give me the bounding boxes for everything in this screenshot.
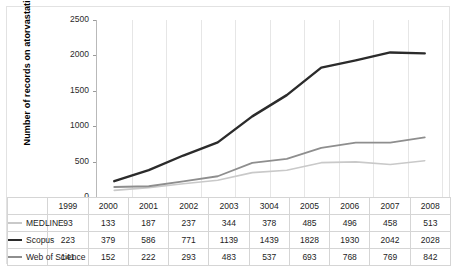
legend-series-name: MEDLINE — [26, 218, 64, 228]
legend-line-swatch-icon — [8, 222, 22, 224]
column-header-2008: 2008 — [410, 198, 450, 215]
column-header-2002: 2002 — [169, 198, 209, 215]
column-header-2007: 2007 — [370, 198, 410, 215]
data-cell: 1828 — [289, 232, 329, 249]
plot-area — [97, 20, 442, 197]
y-tick-label: 1000 — [55, 121, 89, 130]
legend-line-swatch-icon — [8, 239, 22, 241]
y-tick-label: 500 — [55, 157, 89, 166]
table-header-row: 1999200020012002200330042005200620072008 — [8, 198, 451, 215]
line-series-web-of-science — [114, 137, 425, 187]
data-cell: 485 — [289, 215, 329, 232]
table-row: MEDLINE93133187237344378485496458513 — [8, 215, 451, 232]
table-row: Web of Science14115222229348353769376876… — [8, 249, 451, 266]
table-row: Scopus2233795867711139143918281930204220… — [8, 232, 451, 249]
data-cell: 152 — [88, 249, 128, 266]
data-cell: 769 — [370, 249, 410, 266]
y-axis-title: Number of records on atorvastatin — [22, 0, 32, 150]
legend-key-web-of-science: Web of Science — [8, 249, 48, 266]
data-table-region: 1999200020012002200330042005200620072008… — [7, 197, 451, 264]
data-cell: 293 — [169, 249, 209, 266]
table-corner-cell — [8, 198, 48, 215]
y-tick-label: 1500 — [55, 86, 89, 95]
data-cell: 2028 — [410, 232, 450, 249]
data-cell: 842 — [410, 249, 450, 266]
y-tick-label: 2000 — [55, 50, 89, 59]
line-series-scopus — [114, 52, 425, 181]
legend-series-name: Web of Science — [26, 252, 85, 262]
data-cell: 222 — [128, 249, 168, 266]
data-cell: 483 — [209, 249, 249, 266]
legend-key-medline: MEDLINE — [8, 215, 48, 232]
data-cell: 693 — [289, 249, 329, 266]
column-header-1999: 1999 — [48, 198, 88, 215]
legend-series-name: Scopus — [26, 235, 54, 245]
data-cell: 2042 — [370, 232, 410, 249]
series-lines — [97, 20, 442, 197]
data-cell: 513 — [410, 215, 450, 232]
column-header-2006: 2006 — [330, 198, 370, 215]
data-cell: 771 — [169, 232, 209, 249]
data-cell: 237 — [169, 215, 209, 232]
column-header-3004: 3004 — [249, 198, 289, 215]
y-tick-label: 2500 — [55, 15, 89, 24]
column-header-2001: 2001 — [128, 198, 168, 215]
data-cell: 1139 — [209, 232, 249, 249]
data-cell: 458 — [370, 215, 410, 232]
data-cell: 1930 — [330, 232, 370, 249]
data-cell: 133 — [88, 215, 128, 232]
data-cell: 1439 — [249, 232, 289, 249]
legend-key-scopus: Scopus — [8, 232, 48, 249]
chart-figure: Number of records on atorvastatin 050010… — [6, 6, 450, 264]
plot-region: Number of records on atorvastatin 050010… — [7, 7, 451, 197]
legend-line-swatch-icon — [8, 256, 22, 258]
data-cell: 537 — [249, 249, 289, 266]
data-cell: 378 — [249, 215, 289, 232]
column-header-2000: 2000 — [88, 198, 128, 215]
data-cell: 379 — [88, 232, 128, 249]
column-header-2005: 2005 — [289, 198, 329, 215]
data-cell: 344 — [209, 215, 249, 232]
data-cell: 586 — [128, 232, 168, 249]
data-cell: 187 — [128, 215, 168, 232]
column-header-2003: 2003 — [209, 198, 249, 215]
data-table: 1999200020012002200330042005200620072008… — [7, 197, 451, 266]
plot-right-edge — [442, 20, 443, 197]
data-cell: 768 — [330, 249, 370, 266]
data-cell: 496 — [330, 215, 370, 232]
